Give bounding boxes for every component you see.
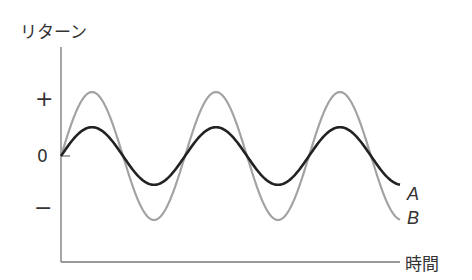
y-tick-plus: +: [35, 86, 53, 111]
y-tick-minus: −: [34, 195, 52, 220]
y-tick-zero: 0: [37, 146, 48, 166]
x-axis-label: 時間: [405, 250, 439, 275]
y-axis-label: リターン: [20, 18, 87, 43]
series-b-line: [61, 92, 400, 220]
series-a-label: A: [407, 184, 419, 205]
series-a-line: [61, 127, 400, 185]
series-b-label: B: [407, 208, 419, 229]
